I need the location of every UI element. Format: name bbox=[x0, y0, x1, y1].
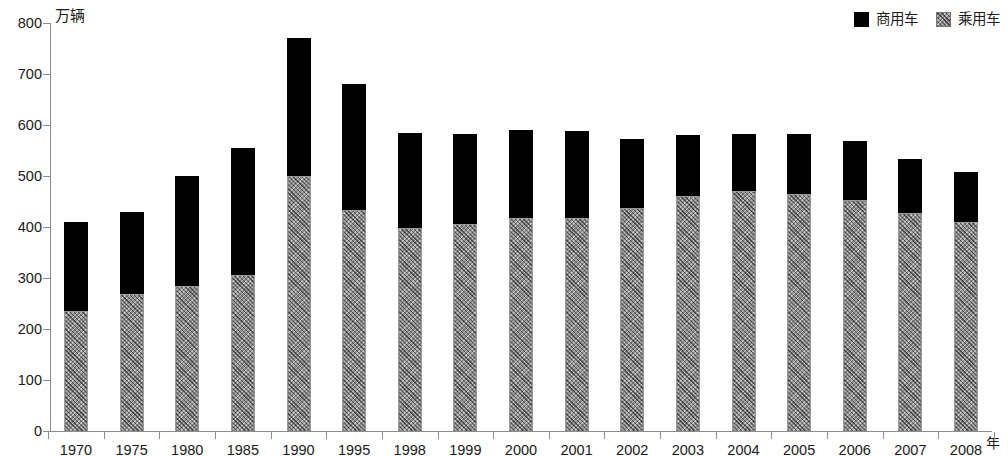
bar-segment-passenger bbox=[453, 224, 477, 431]
y-axis-tick-label: 200 bbox=[2, 322, 42, 337]
bar-group bbox=[453, 134, 477, 431]
bar-group bbox=[787, 134, 811, 431]
x-axis-tick-label: 1999 bbox=[449, 443, 481, 456]
bar-group bbox=[120, 212, 144, 431]
bar-segment-passenger bbox=[64, 311, 88, 431]
x-axis-tick bbox=[827, 432, 828, 439]
x-axis-tick bbox=[938, 432, 939, 439]
bar-group bbox=[64, 222, 88, 431]
bar-segment-commercial bbox=[342, 84, 366, 210]
x-axis-tick bbox=[104, 432, 105, 439]
x-axis-tick-label: 2003 bbox=[672, 443, 704, 456]
y-axis-tick bbox=[43, 176, 50, 177]
y-axis-tick bbox=[43, 23, 50, 24]
bar-segment-commercial bbox=[231, 148, 255, 276]
y-axis-tick bbox=[43, 380, 50, 381]
bar-segment-commercial bbox=[565, 131, 589, 218]
bar-segment-commercial bbox=[64, 222, 88, 311]
bar-segment-commercial bbox=[843, 141, 867, 200]
x-axis-tick bbox=[994, 432, 995, 439]
bar-segment-commercial bbox=[120, 212, 144, 295]
x-axis-tick-label: 1998 bbox=[394, 443, 426, 456]
x-axis-tick-label: 1970 bbox=[60, 443, 92, 456]
bar-group bbox=[342, 84, 366, 431]
x-axis-tick-label: 2001 bbox=[560, 443, 592, 456]
x-axis-line bbox=[50, 431, 992, 432]
x-axis-tick bbox=[771, 432, 772, 439]
x-axis-tick-label: 2008 bbox=[950, 443, 982, 456]
plot-area: 0100200300400500600700800 19701975198019… bbox=[50, 23, 992, 431]
bar-segment-passenger bbox=[120, 294, 144, 431]
bar-segment-passenger bbox=[509, 218, 533, 431]
x-axis-tick-label: 1985 bbox=[227, 443, 259, 456]
bar-group bbox=[398, 133, 422, 431]
x-axis-tick-label: 2002 bbox=[616, 443, 648, 456]
x-axis-tick-label: 2006 bbox=[839, 443, 871, 456]
y-axis-tick-label: 300 bbox=[2, 271, 42, 286]
y-axis-tick-label: 100 bbox=[2, 373, 42, 388]
y-axis-tick-label: 500 bbox=[2, 169, 42, 184]
bar-group bbox=[231, 148, 255, 431]
bar-group bbox=[287, 38, 311, 431]
bar-segment-commercial bbox=[453, 134, 477, 224]
bar-segment-commercial bbox=[787, 134, 811, 194]
bar-segment-commercial bbox=[175, 176, 199, 286]
bar-segment-passenger bbox=[620, 208, 644, 431]
bar-group bbox=[898, 159, 922, 431]
x-axis-tick bbox=[493, 432, 494, 439]
bar-segment-passenger bbox=[175, 286, 199, 431]
x-axis-tick bbox=[159, 432, 160, 439]
bar-group bbox=[676, 135, 700, 431]
x-axis-tick-label: 1980 bbox=[171, 443, 203, 456]
y-axis-unit-label: 万辆 bbox=[55, 8, 85, 23]
x-axis-tick bbox=[48, 432, 49, 439]
x-axis-tick bbox=[326, 432, 327, 439]
y-axis-tick bbox=[43, 125, 50, 126]
bar-group bbox=[732, 134, 756, 431]
y-axis-tick bbox=[43, 74, 50, 75]
bar-group bbox=[843, 141, 867, 431]
y-axis-tick-label: 600 bbox=[2, 118, 42, 133]
bar-segment-passenger bbox=[398, 228, 422, 431]
x-axis-tick bbox=[438, 432, 439, 439]
bar-segment-passenger bbox=[954, 222, 978, 431]
y-axis-tick-label: 700 bbox=[2, 67, 42, 82]
bar-group bbox=[509, 130, 533, 431]
bar-segment-passenger bbox=[342, 210, 366, 431]
x-axis-tick-label: 1995 bbox=[338, 443, 370, 456]
x-axis-tick bbox=[271, 432, 272, 439]
bar-segment-passenger bbox=[231, 275, 255, 431]
x-axis-tick bbox=[883, 432, 884, 439]
y-axis-tick-label: 400 bbox=[2, 220, 42, 235]
x-axis-tick bbox=[660, 432, 661, 439]
bar-segment-commercial bbox=[620, 139, 644, 208]
bar-group bbox=[175, 176, 199, 431]
bar-segment-passenger bbox=[843, 200, 867, 431]
y-axis-tick bbox=[43, 278, 50, 279]
bar-segment-passenger bbox=[732, 191, 756, 431]
bar-segment-commercial bbox=[509, 130, 533, 218]
bar-segment-commercial bbox=[676, 135, 700, 196]
bar-segment-passenger bbox=[787, 194, 811, 431]
bar-segment-passenger bbox=[565, 218, 589, 431]
x-axis-tick-label: 1975 bbox=[115, 443, 147, 456]
x-axis-tick-label: 2000 bbox=[505, 443, 537, 456]
bar-segment-commercial bbox=[898, 159, 922, 213]
x-axis-tick bbox=[382, 432, 383, 439]
x-axis-tick-label: 2004 bbox=[727, 443, 759, 456]
bar-segment-commercial bbox=[732, 134, 756, 192]
bar-group bbox=[565, 131, 589, 431]
y-axis-tick bbox=[43, 329, 50, 330]
bar-segment-passenger bbox=[676, 196, 700, 431]
x-axis-tick-label: 2005 bbox=[783, 443, 815, 456]
x-axis-tick bbox=[549, 432, 550, 439]
x-axis-tick bbox=[716, 432, 717, 439]
y-axis-tick bbox=[43, 227, 50, 228]
y-axis-line bbox=[50, 23, 51, 432]
x-axis-tick-label: 1990 bbox=[282, 443, 314, 456]
x-axis-tick bbox=[604, 432, 605, 439]
bar-segment-commercial bbox=[287, 38, 311, 176]
bar-group bbox=[954, 172, 978, 431]
stacked-bar-chart: 商用车 乘用车 万辆 年 0100200300400500600700800 1… bbox=[0, 0, 1008, 456]
bar-segment-commercial bbox=[398, 133, 422, 228]
